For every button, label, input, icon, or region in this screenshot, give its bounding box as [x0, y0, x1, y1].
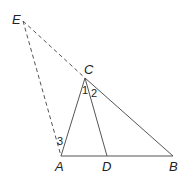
- point-label-c: C: [84, 62, 94, 77]
- dashed-segments: [23, 21, 85, 156]
- point-label-b: B: [169, 159, 178, 174]
- geometry-diagram: E C A D B 1 2 3: [0, 0, 183, 182]
- point-label-e: E: [12, 12, 21, 27]
- solid-segments: [61, 78, 173, 156]
- angle-label-1: 1: [82, 84, 88, 96]
- segment-ea: [23, 21, 61, 156]
- point-label-a: A: [54, 159, 64, 174]
- angle-labels: 1 2 3: [57, 84, 97, 147]
- angle-label-3: 3: [57, 135, 63, 147]
- angle-label-2: 2: [91, 87, 97, 99]
- segment-ec: [23, 21, 85, 78]
- segment-cb: [85, 78, 173, 156]
- point-label-d: D: [102, 159, 111, 174]
